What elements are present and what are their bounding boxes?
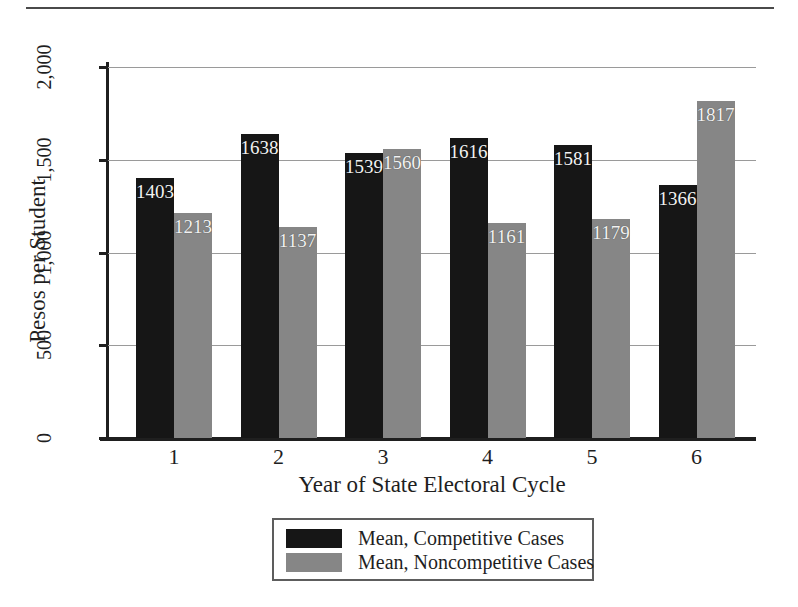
x-tick-label-5: 5	[552, 444, 632, 470]
legend-label-competitive: Mean, Competitive Cases	[358, 527, 564, 550]
bar-noncompetitive-year-2: 1137	[279, 227, 317, 438]
bar-value-label: 1179	[592, 223, 630, 243]
chart-legend: Mean, Competitive Cases Mean, Noncompeti…	[272, 518, 594, 581]
bar-competitive-year-1: 1403	[136, 178, 174, 438]
legend-item-noncompetitive: Mean, Noncompetitive Cases	[286, 550, 594, 574]
x-tick-label-6: 6	[657, 444, 737, 470]
bar-competitive-year-6: 1366	[659, 185, 697, 438]
bar-noncompetitive-year-1: 1213	[174, 213, 212, 438]
x-axis-title: Year of State Electoral Cycle	[108, 472, 756, 498]
bar-noncompetitive-year-6: 1817	[697, 101, 735, 438]
bar-value-label: 1581	[554, 149, 592, 169]
bar-value-label: 1137	[279, 231, 317, 251]
bar-value-label: 1817	[697, 105, 735, 125]
bar-value-label: 1403	[136, 182, 174, 202]
x-tick-label-2: 2	[239, 444, 319, 470]
bar-noncompetitive-year-4: 1161	[488, 223, 526, 438]
bar-value-label: 1638	[241, 138, 279, 158]
bar-competitive-year-5: 1581	[554, 145, 592, 438]
legend-swatch-competitive	[286, 529, 342, 548]
legend-swatch-noncompetitive	[286, 553, 342, 572]
bar-value-label: 1366	[659, 189, 697, 209]
legend-item-competitive: Mean, Competitive Cases	[286, 526, 564, 550]
x-tick-label-4: 4	[448, 444, 528, 470]
gridline-2000	[108, 67, 756, 68]
bar-value-label: 1213	[174, 217, 212, 237]
bar-competitive-year-3: 1539	[345, 153, 383, 438]
bar-value-label: 1539	[345, 157, 383, 177]
plot-area: 1403121316381137153915601616116115811179…	[108, 60, 756, 440]
legend-label-noncompetitive: Mean, Noncompetitive Cases	[358, 551, 594, 574]
x-tick-label-1: 1	[134, 444, 214, 470]
gridline-1500	[108, 160, 756, 161]
bar-value-label: 1161	[488, 227, 526, 247]
bar-competitive-year-2: 1638	[241, 134, 279, 438]
bar-noncompetitive-year-3: 1560	[383, 149, 421, 438]
y-tick-label-2000: 2,000	[0, 7, 104, 127]
bar-noncompetitive-year-5: 1179	[592, 219, 630, 438]
bar-value-label: 1616	[450, 142, 488, 162]
bar-competitive-year-4: 1616	[450, 138, 488, 438]
bar-chart-figure: Pesos per Student 05001,0001,5002,000 14…	[0, 0, 798, 607]
bar-value-label: 1560	[383, 153, 421, 173]
x-tick-label-3: 3	[343, 444, 423, 470]
